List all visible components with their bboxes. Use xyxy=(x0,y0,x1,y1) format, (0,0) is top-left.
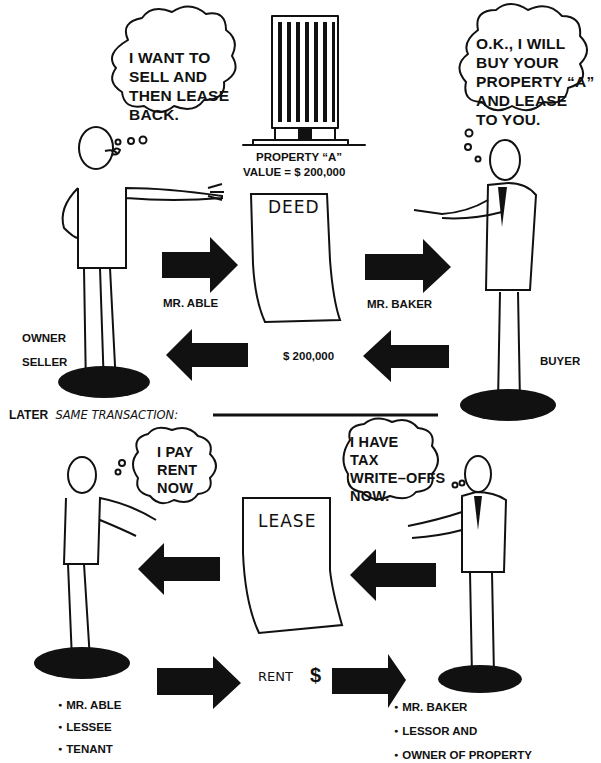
tenant-role-item: LESSEE xyxy=(58,717,121,739)
arrow-left-payment-from-buyer xyxy=(363,330,449,382)
seller-thought-text: I WANT TO SELL AND THEN LEASE BACK. xyxy=(129,48,229,124)
mr-able-label: MR. ABLE xyxy=(163,297,218,309)
arrow-left-lease-from-lessor xyxy=(350,549,436,601)
role-owner: OWNER xyxy=(22,332,66,344)
dollar-sign-icon: $ xyxy=(310,664,321,687)
tenant-shadow xyxy=(34,647,130,679)
lessor-role-item: OWNER OF PROPERTY xyxy=(394,744,532,763)
tenant-roles-list: MR. ABLE LESSEE TENANT xyxy=(58,695,121,761)
lessor-shadow xyxy=(438,665,522,693)
arrow-left-payment xyxy=(166,329,248,381)
arrow-left-lease-to-tenant xyxy=(138,543,220,595)
deed-label: DEED xyxy=(268,197,320,217)
tenant-thought-text: I PAY RENT NOW xyxy=(157,443,197,497)
rent-label: RENT xyxy=(258,669,293,684)
role-buyer: BUYER xyxy=(540,355,580,367)
buyer-thought-text: O.K., I WILL BUY YOUR PROPERTY “A” AND L… xyxy=(476,34,594,129)
tenant-figure xyxy=(64,457,156,660)
seller-shadow xyxy=(58,366,150,398)
buyer-shadow xyxy=(460,389,556,421)
arrow-right-deed-received xyxy=(365,239,451,293)
tenant-role-item: TENANT xyxy=(58,739,121,761)
payment-amount-label: $ 200,000 xyxy=(283,350,334,362)
lessor-roles-list: MR. BAKER LESSOR AND OWNER OF PROPERTY xyxy=(394,696,532,763)
role-seller: SELLER xyxy=(22,356,67,368)
property-value: VALUE = $ 200,000 xyxy=(243,166,345,178)
arrow-right-deed-to-buyer xyxy=(162,237,238,293)
property-label: PROPERTY “A” xyxy=(256,151,342,163)
mr-baker-label: MR. BAKER xyxy=(367,298,432,310)
lessor-role-item: LESSOR AND xyxy=(394,720,532,744)
lessor-thought-text: I HAVE TAX WRITE–OFFS NOW. xyxy=(350,433,445,505)
arrow-right-rent-out xyxy=(157,656,241,709)
later-caption: LATER SAME TRANSACTION: xyxy=(9,408,178,422)
tenant-role-item: MR. ABLE xyxy=(58,695,121,717)
lessor-role-item: MR. BAKER xyxy=(394,696,532,720)
lease-label: LEASE xyxy=(258,511,316,531)
